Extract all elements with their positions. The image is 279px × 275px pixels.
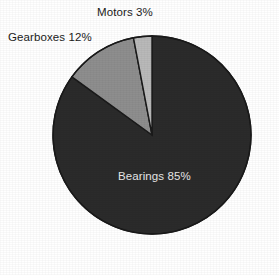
pie-chart: Motors 3% Gearboxes 12% Bearings 85% [0, 0, 279, 275]
pie-label-bearings: Bearings 85% [118, 170, 191, 183]
pie-label-gearboxes: Gearboxes 12% [8, 31, 92, 44]
pie-label-motors: Motors 3% [97, 6, 153, 19]
